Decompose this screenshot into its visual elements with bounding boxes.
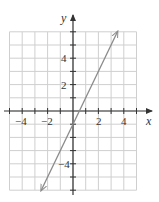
y-tick-label: −4 (58, 158, 70, 170)
y-tick-label: 2 (61, 79, 67, 91)
x-tick-label: −2 (41, 115, 53, 127)
coordinate-plane: y x −4 −2 2 4 4 2 −4 (0, 0, 159, 202)
x-tick-label: 2 (96, 115, 102, 127)
x-axis-label: x (145, 114, 152, 128)
x-tick-label: 4 (121, 115, 127, 127)
y-tick-label: 4 (61, 52, 67, 64)
y-axis-label: y (60, 11, 67, 25)
x-tick-label: −4 (15, 115, 27, 127)
